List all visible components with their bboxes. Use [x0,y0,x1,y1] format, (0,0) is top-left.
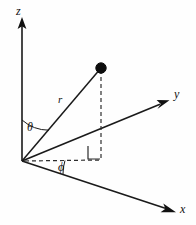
theta-angle-label: θ [27,121,33,133]
diagram-canvas [0,0,196,225]
filled-circle-icon [96,63,106,73]
radius-vector-line [22,68,101,161]
phi-angle-label: ϕ [58,161,64,173]
x-axis-label: x [180,203,185,215]
y-axis-line [22,104,160,161]
spherical-coordinates-figure: z y x r θ ϕ [0,0,196,225]
z-axis-label: z [16,5,21,17]
y-axis-label: y [174,88,179,100]
radius-vector-label: r [58,94,62,105]
x-axis-line [22,161,166,209]
right-angle-icon [88,146,100,159]
